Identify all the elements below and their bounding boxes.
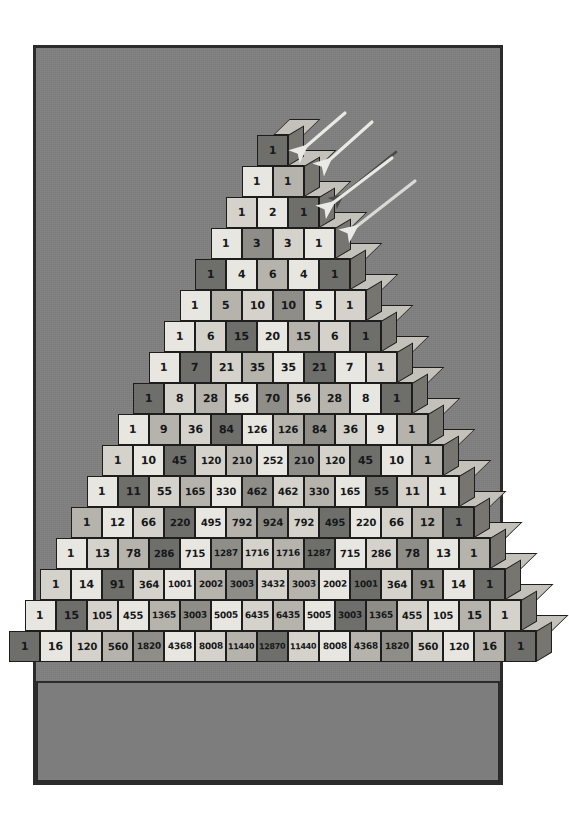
pascal-cube-value: 1: [501, 610, 509, 621]
pascal-cube: 4: [288, 259, 319, 290]
pascal-cube-value: 6: [269, 269, 277, 280]
pascal-cube-value: 210: [293, 455, 313, 465]
pascal-cube: 56: [288, 383, 319, 414]
pascal-cube-value: 7: [346, 362, 354, 373]
pascal-cube: 1: [133, 383, 164, 414]
pascal-cube: 1287: [304, 538, 335, 569]
pascal-cube-value: 220: [169, 517, 189, 527]
pascal-cube-value: 165: [340, 486, 360, 496]
pascal-cube-value: 8: [176, 393, 184, 404]
pascal-cube-value: 1287: [214, 549, 238, 559]
pascal-cube: 13: [428, 538, 459, 569]
pascal-cube: 70: [257, 383, 288, 414]
pascal-cube-value: 1: [455, 517, 463, 528]
pascal-cube-value: 1287: [307, 549, 331, 559]
pascal-cube: 120: [319, 445, 350, 476]
pascal-cube-value: 15: [64, 610, 79, 621]
pascal-cube: 220: [164, 507, 195, 538]
pascal-cube: 1: [102, 445, 133, 476]
pascal-cube: 7: [335, 352, 366, 383]
pascal-cube: 4: [226, 259, 257, 290]
pascal-cube: 10: [273, 290, 304, 321]
pascal-cube-value: 36: [343, 424, 358, 435]
pascal-cube-value: 16: [48, 641, 63, 652]
pascal-cube: 560: [412, 631, 443, 662]
pascal-cube: 210: [226, 445, 257, 476]
pascal-cube: 364: [133, 569, 164, 600]
pascal-cube-value: 1: [470, 548, 478, 559]
pascal-cube-value: 11: [126, 486, 141, 497]
pascal-cube: 45: [164, 445, 195, 476]
pascal-cube: 21: [211, 352, 242, 383]
pascal-cube: 1: [56, 538, 87, 569]
pascal-cube-value: 21: [219, 362, 234, 373]
pascal-cube: 9: [366, 414, 397, 445]
pascal-cube: 3003: [226, 569, 257, 600]
pascal-cube-value: 28: [327, 393, 342, 404]
pascal-cube-value: 1: [269, 145, 277, 156]
pascal-cube: 120: [71, 631, 102, 662]
pascal-cube-value: 8: [362, 393, 370, 404]
pascal-cube-value: 4: [300, 269, 308, 280]
pascal-cube-value: 20: [265, 331, 280, 342]
pascal-cube: 14: [443, 569, 474, 600]
pascal-cube-value: 11440: [228, 642, 255, 651]
pascal-cube: 1: [335, 290, 366, 321]
pascal-cube: 1: [288, 197, 319, 228]
pascal-cube: 1: [350, 321, 381, 352]
pascal-cube-value: 15: [234, 331, 249, 342]
pascal-cube: 1287: [211, 538, 242, 569]
pascal-cube-value: 4368: [353, 642, 377, 652]
pascal-cube-value: 6: [331, 331, 339, 342]
pascal-cube-value: 91: [110, 579, 125, 590]
pascal-cube: 3003: [335, 600, 366, 631]
pascal-cube-value: 91: [420, 579, 435, 590]
pascal-cube: 35: [273, 352, 304, 383]
pascal-cube: 2: [257, 197, 288, 228]
pascal-cube-value: 120: [448, 641, 468, 651]
pascal-cube: 1: [428, 476, 459, 507]
pascal-cube: 455: [118, 600, 149, 631]
pascal-cube: 6435: [273, 600, 304, 631]
pascal-cube: 15: [459, 600, 490, 631]
pascal-cube-value: 10: [250, 300, 265, 311]
pascal-cube: 7: [180, 352, 211, 383]
pascal-cube: 1: [304, 228, 335, 259]
pascal-cube: 14: [71, 569, 102, 600]
pascal-cube: 1001: [164, 569, 195, 600]
pascal-cube: 28: [319, 383, 350, 414]
pascal-cube-value: 120: [76, 641, 96, 651]
pascal-cube-value: 220: [355, 517, 375, 527]
pascal-cube: 715: [180, 538, 211, 569]
pascal-cube: 1: [71, 507, 102, 538]
pascal-cube-value: 792: [293, 517, 313, 527]
pascal-cube-value: 36: [188, 424, 203, 435]
pascal-cube-value: 66: [141, 517, 156, 528]
pascal-cube-value: 105: [433, 610, 453, 620]
pascal-cube: 6: [257, 259, 288, 290]
pascal-cube: 286: [366, 538, 397, 569]
pascal-cube: 252: [257, 445, 288, 476]
pascal-cube: 1: [25, 600, 56, 631]
pascal-cube-value: 2002: [322, 580, 346, 590]
pascal-cube: 3: [273, 228, 304, 259]
pascal-cube: 3003: [288, 569, 319, 600]
pascal-cube-value: 1: [145, 393, 153, 404]
pascal-cube-value: 3: [284, 238, 292, 249]
pascal-cube: 105: [87, 600, 118, 631]
pascal-cube: 35: [242, 352, 273, 383]
pascal-cube-value: 1: [377, 362, 385, 373]
pascal-cube-value: 4: [238, 269, 246, 280]
pascal-cube: 1: [412, 445, 443, 476]
pascal-cube-value: 70: [265, 393, 280, 404]
pascal-cube-value: 10: [141, 455, 156, 466]
pascal-cube: 12870: [257, 631, 288, 662]
pascal-cube-value: 6435: [245, 611, 269, 621]
pascal-cube: 78: [397, 538, 428, 569]
pascal-cube: 4368: [350, 631, 381, 662]
pascal-cube-value: 1: [346, 300, 354, 311]
pascal-cube-value: 1: [160, 362, 168, 373]
pascal-cube: 78: [118, 538, 149, 569]
pascal-cube: 21: [304, 352, 335, 383]
